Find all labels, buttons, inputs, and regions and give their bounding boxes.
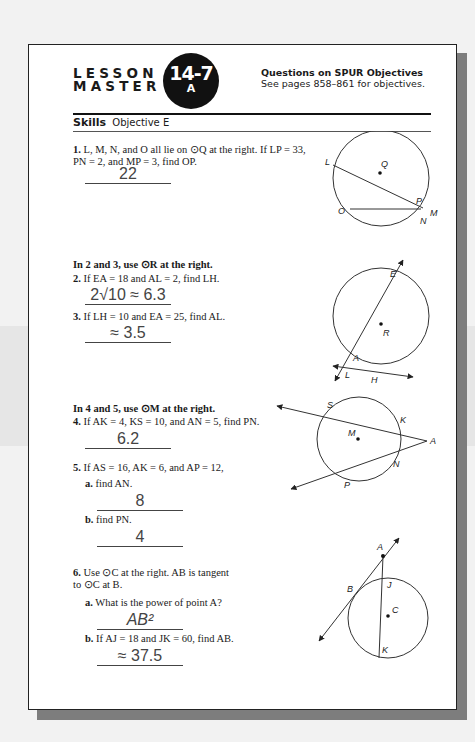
question-5a: a. find AN.: [85, 478, 132, 490]
badge-letter: A: [163, 83, 219, 95]
part-text: find AN.: [96, 478, 133, 489]
question-text: L, M, N, and O all lie on ⊙Q at the righ…: [73, 144, 306, 167]
question-text: If EA = 18 and AL = 2, find LH.: [84, 273, 220, 284]
section-heading-4-5: In 4 and 5, use ⊙M at the right.: [73, 402, 215, 414]
badge-number: 14-7: [163, 63, 219, 83]
label-a: A: [376, 542, 383, 552]
question-5b: b. find PN.: [85, 514, 132, 526]
spur-subtitle: See pages 858–861 for objectives.: [261, 78, 425, 89]
answer-5b[interactable]: 4: [97, 528, 183, 547]
objective-label: Objective E: [112, 117, 169, 128]
question-text: Use ⊙C at the right. AB is tangent to ⊙C…: [73, 567, 229, 590]
label-j: J: [386, 580, 392, 590]
answer-6a[interactable]: AB²: [97, 611, 183, 630]
part-label: b.: [85, 514, 93, 525]
lesson-badge: 14-7 A: [163, 53, 219, 109]
label-a: A: [352, 353, 359, 363]
label-k: K: [400, 415, 407, 425]
question-number: 6.: [73, 567, 81, 578]
label-a: A: [429, 436, 436, 446]
question-number: 2.: [73, 273, 81, 284]
worksheet-page: LESSON MASTER 14-7 A Questions on SPUR O…: [28, 44, 457, 710]
circle-m-diagram: S K M A N P: [269, 391, 444, 503]
label-n: N: [420, 216, 427, 226]
label-o: O: [338, 206, 345, 216]
label-r: R: [383, 328, 390, 338]
label-l: L: [345, 370, 350, 380]
question-2: 2. If EA = 18 and AL = 2, find LH.: [73, 273, 313, 285]
label-b: B: [347, 584, 353, 594]
part-text: find PN.: [96, 514, 132, 525]
question-number: 3.: [73, 311, 81, 322]
label-l: L: [325, 157, 330, 167]
label-p: P: [344, 480, 350, 490]
label-e: E: [390, 269, 397, 279]
part-label: a.: [85, 597, 93, 608]
circle-c-diagram: A B J C K: [301, 521, 441, 671]
question-text: If LH = 10 and EA = 25, find AL.: [84, 311, 226, 322]
answer-4[interactable]: 6.2: [85, 430, 171, 449]
question-6a: a. What is the power of point A?: [85, 597, 222, 609]
answer-1[interactable]: 22: [85, 165, 171, 184]
question-6b: b. If AJ = 18 and JK = 60, find AB.: [85, 633, 234, 645]
label-m: M: [348, 428, 356, 438]
part-label: a.: [85, 478, 93, 489]
label-m: M: [430, 208, 438, 218]
circle-q-diagram: L Q P O M N: [301, 131, 441, 241]
circle-r-diagram: E R A L H: [301, 245, 441, 385]
label-p: P: [416, 196, 422, 206]
question-3: 3. If LH = 10 and EA = 25, find AL.: [73, 311, 313, 323]
skills-bar: Skills Objective E: [73, 113, 431, 132]
question-number: 4.: [73, 416, 81, 427]
question-number: 1.: [73, 144, 81, 155]
answer-3[interactable]: ≈ 3.5: [85, 324, 171, 343]
spur-objectives-note: Questions on SPUR Objectives See pages 8…: [261, 67, 425, 89]
label-c: C: [392, 605, 399, 615]
label-n: N: [393, 459, 400, 469]
label-h: H: [371, 375, 378, 385]
question-number: 5.: [73, 462, 81, 473]
lesson-master-title: LESSON MASTER: [73, 67, 161, 93]
answer-6b[interactable]: ≈ 37.5: [97, 647, 183, 666]
question-text: If AS = 16, AK = 6, and AP = 12,: [84, 462, 224, 473]
question-text: If AK = 4, KS = 10, and AN = 5, find PN.: [84, 416, 260, 427]
spur-title: Questions on SPUR Objectives: [261, 67, 423, 78]
part-text: If AJ = 18 and JK = 60, find AB.: [96, 633, 234, 644]
skills-label: Skills: [73, 116, 106, 129]
answer-2[interactable]: 2√10 ≈ 6.3: [85, 286, 171, 305]
label-q: Q: [381, 159, 388, 169]
section-heading-2-3: In 2 and 3, use ⊙R at the right.: [73, 258, 213, 270]
master-label: MASTER: [73, 80, 161, 93]
label-k: K: [382, 645, 389, 655]
part-text: What is the power of point A?: [95, 597, 222, 608]
part-label: b.: [85, 633, 93, 644]
question-6: 6. Use ⊙C at the right. AB is tangent to…: [73, 567, 233, 591]
answer-5a[interactable]: 8: [97, 492, 183, 511]
label-s: S: [327, 400, 333, 410]
